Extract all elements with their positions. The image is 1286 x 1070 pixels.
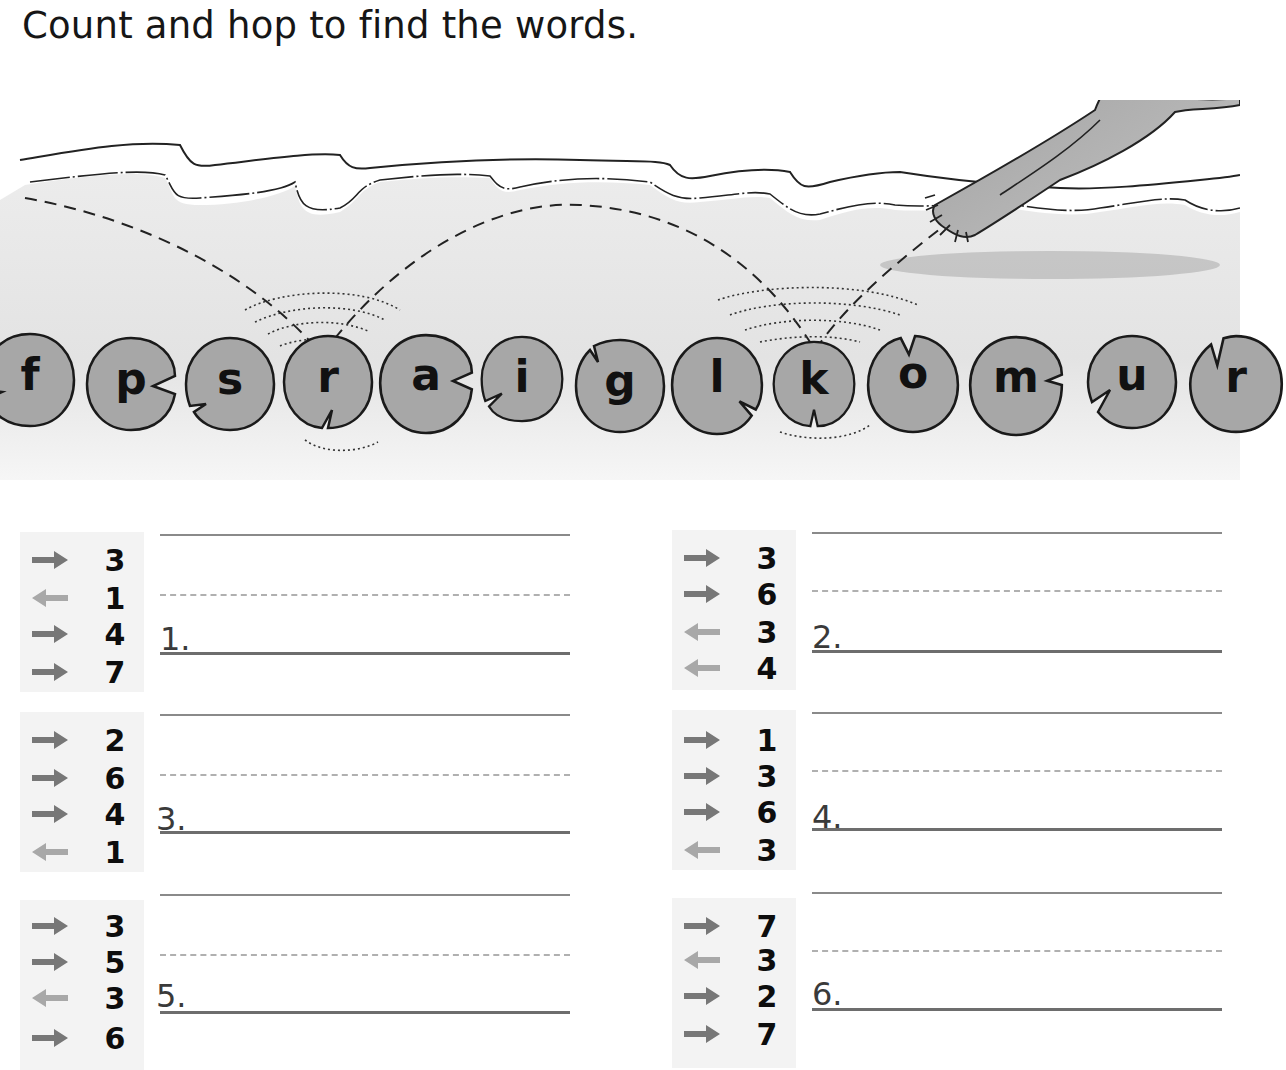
arrow-right-icon xyxy=(30,804,70,824)
answer-line[interactable] xyxy=(812,1008,1222,1011)
clue-row: 1 xyxy=(20,580,144,617)
clue-count: 6 xyxy=(752,794,782,831)
arrow-right-icon xyxy=(30,952,70,972)
arrow-left-icon xyxy=(682,840,722,860)
clue-count: 3 xyxy=(752,758,782,795)
lily-pad: g xyxy=(572,336,668,436)
lily-pad: k xyxy=(770,334,858,434)
pad-letter: a xyxy=(376,350,476,400)
clue-box: 3 6 3 4 xyxy=(672,530,796,690)
mid-dashed-line xyxy=(812,770,1222,772)
clue-row: 3 xyxy=(672,758,796,795)
clue-row: 1 xyxy=(672,722,796,759)
clue-box: 3 5 3 6 xyxy=(20,900,144,1070)
lily-pad: r xyxy=(1186,332,1286,436)
clue-row: 3 xyxy=(672,614,796,651)
pad-letter: f xyxy=(0,350,78,400)
arrow-left-icon xyxy=(30,588,70,608)
top-writing-line xyxy=(160,894,570,896)
arrow-right-icon xyxy=(30,916,70,936)
mid-dashed-line xyxy=(160,774,570,776)
clue-row: 2 xyxy=(672,978,796,1015)
pad-letter: s xyxy=(182,354,278,404)
exercise-2: 3 6 3 4 2. xyxy=(672,524,1232,694)
exercise-4: 1 3 6 3 4. xyxy=(672,704,1232,874)
answer-line[interactable] xyxy=(812,650,1222,653)
clue-row: 3 xyxy=(20,542,144,579)
clue-row: 3 xyxy=(20,980,144,1017)
clue-row: 5 xyxy=(20,944,144,981)
clue-count: 1 xyxy=(100,834,130,871)
clue-row: 4 xyxy=(20,616,144,653)
clue-count: 6 xyxy=(100,760,130,797)
clue-count: 3 xyxy=(100,542,130,579)
lily-pad: m xyxy=(966,332,1066,438)
clue-count: 7 xyxy=(100,654,130,691)
arrow-left-icon xyxy=(682,658,722,678)
clue-row: 1 xyxy=(20,834,144,871)
answer-line[interactable] xyxy=(812,828,1222,831)
clue-row: 3 xyxy=(672,942,796,979)
clue-row: 3 xyxy=(672,540,796,577)
pad-letter: m xyxy=(966,352,1066,402)
exercise-1: 3 1 4 7 1. xyxy=(20,526,580,696)
clue-row: 6 xyxy=(20,1020,144,1057)
lily-pad: s xyxy=(182,334,278,434)
mid-dashed-line xyxy=(812,590,1222,592)
page-title: Count and hop to find the words. xyxy=(22,4,638,47)
exercise-3: 2 6 4 1 3. xyxy=(20,706,580,876)
pad-letter: o xyxy=(864,348,962,398)
clue-count: 3 xyxy=(100,980,130,1017)
clue-count: 4 xyxy=(100,796,130,833)
arrow-right-icon xyxy=(30,768,70,788)
clue-count: 2 xyxy=(100,722,130,759)
arrow-right-icon xyxy=(30,550,70,570)
exercise-5: 3 5 3 6 5. xyxy=(20,886,580,1056)
clue-box: 1 3 6 3 xyxy=(672,710,796,870)
arrow-right-icon xyxy=(682,730,722,750)
exercise-number: 6. xyxy=(812,976,843,1012)
clue-row: 2 xyxy=(20,722,144,759)
top-writing-line xyxy=(812,532,1222,534)
pad-letter: l xyxy=(668,352,766,402)
clue-row: 6 xyxy=(672,794,796,831)
clue-count: 3 xyxy=(752,614,782,651)
pad-letter: r xyxy=(280,352,376,402)
exercise-number: 5. xyxy=(156,978,187,1014)
mid-dashed-line xyxy=(160,954,570,956)
clue-row: 3 xyxy=(20,908,144,945)
pad-letter: p xyxy=(82,354,180,404)
arrow-right-icon xyxy=(682,802,722,822)
clue-row: 7 xyxy=(672,1016,796,1053)
pad-letter: i xyxy=(478,352,566,402)
clue-count: 4 xyxy=(100,616,130,653)
clue-count: 1 xyxy=(752,722,782,759)
lily-pad: a xyxy=(376,330,476,436)
top-writing-line xyxy=(812,712,1222,714)
clue-count: 3 xyxy=(752,942,782,979)
pad-letter: g xyxy=(572,356,668,406)
clue-row: 6 xyxy=(20,760,144,797)
top-writing-line xyxy=(160,714,570,716)
clue-row: 7 xyxy=(672,908,796,945)
clue-row: 4 xyxy=(672,650,796,687)
arrow-right-icon xyxy=(682,986,722,1006)
clue-count: 5 xyxy=(100,944,130,981)
clue-box: 7 3 2 7 xyxy=(672,898,796,1068)
lily-pad: u xyxy=(1084,330,1180,434)
clue-count: 4 xyxy=(752,650,782,687)
arrow-left-icon xyxy=(30,988,70,1008)
arrow-right-icon xyxy=(30,730,70,750)
clue-count: 1 xyxy=(100,580,130,617)
mid-dashed-line xyxy=(160,594,570,596)
arrow-right-icon xyxy=(682,916,722,936)
arrow-left-icon xyxy=(682,950,722,970)
answer-line[interactable] xyxy=(160,1011,570,1014)
arrow-right-icon xyxy=(682,1024,722,1044)
answer-line[interactable] xyxy=(160,652,570,655)
lily-pad: o xyxy=(864,328,962,438)
answer-line[interactable] xyxy=(160,831,570,834)
pad-letter: r xyxy=(1186,352,1286,402)
lily-pad: l xyxy=(668,332,766,438)
arrow-right-icon xyxy=(30,624,70,644)
